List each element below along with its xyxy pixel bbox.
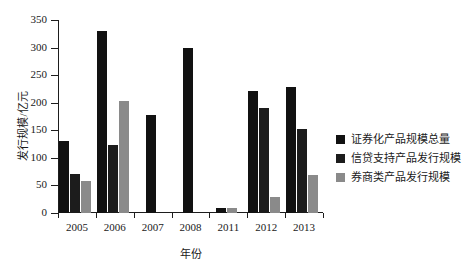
bar [119, 101, 129, 213]
y-tick: 50 [51, 185, 58, 186]
x-tick [58, 213, 59, 218]
bar-group: 2007 [134, 20, 172, 213]
bar-group: 2006 [96, 20, 134, 213]
y-tick-label: 0 [42, 206, 48, 219]
legend-label: 信贷支持产品发行规模 [351, 152, 461, 165]
legend-item: 信贷支持产品发行规模 [336, 149, 466, 168]
bar [248, 91, 258, 213]
x-tick-label: 2013 [274, 221, 334, 234]
x-tick [96, 213, 97, 218]
legend-item: 证券化产品规模总量 [336, 130, 466, 149]
bar [286, 87, 296, 213]
bar [146, 115, 156, 213]
bar [270, 197, 280, 213]
x-axis-title: 年份 [58, 245, 323, 261]
bar [70, 174, 80, 213]
bar [81, 181, 91, 213]
bar [216, 208, 226, 214]
bar [297, 129, 307, 213]
y-tick: 350 [51, 20, 58, 21]
bar-chart: 发行规模/亿元 050100150200250300350 2005200620… [0, 0, 469, 272]
y-axis-title: 发行规模/亿元 [14, 66, 30, 186]
legend-item: 券商类产品发行规模 [336, 168, 466, 187]
chart-legend: 证券化产品规模总量信贷支持产品发行规模券商类产品发行规模 [336, 130, 466, 187]
y-tick-label: 100 [31, 151, 48, 164]
y-tick: 150 [51, 130, 58, 131]
legend-swatch-icon [336, 135, 345, 144]
y-tick-label: 250 [31, 68, 48, 81]
legend-label: 券商类产品发行规模 [351, 171, 450, 184]
y-tick: 200 [51, 103, 58, 104]
x-tick [247, 213, 248, 218]
legend-label: 证券化产品规模总量 [351, 133, 450, 146]
y-tick: 300 [51, 48, 58, 49]
y-tick-label: 300 [31, 41, 48, 54]
bar [227, 208, 237, 213]
legend-swatch-icon [336, 173, 345, 182]
y-tick: 100 [51, 158, 58, 159]
x-tick [134, 213, 135, 218]
y-tick: 0 [51, 213, 58, 214]
x-tick [172, 213, 173, 218]
x-tick [285, 213, 286, 218]
y-tick-label: 150 [31, 123, 48, 136]
y-tick-label: 200 [31, 96, 48, 109]
x-tick [323, 213, 324, 218]
plot-area: 050100150200250300350 200520062007200820… [58, 20, 323, 213]
bar-group: 2013 [285, 20, 323, 213]
bar [259, 108, 269, 213]
bar [183, 48, 193, 213]
bar-group: 2005 [58, 20, 96, 213]
y-tick-label: 350 [31, 13, 48, 26]
bar-group: 2008 [172, 20, 210, 213]
y-tick-label: 50 [36, 178, 47, 191]
bar [108, 145, 118, 213]
y-tick: 250 [51, 75, 58, 76]
bar [308, 175, 318, 213]
bar [97, 31, 107, 213]
bar [59, 141, 69, 213]
legend-swatch-icon [336, 154, 345, 163]
bar-group: 2011 [209, 20, 247, 213]
bar-group: 2012 [247, 20, 285, 213]
x-tick [209, 213, 210, 218]
